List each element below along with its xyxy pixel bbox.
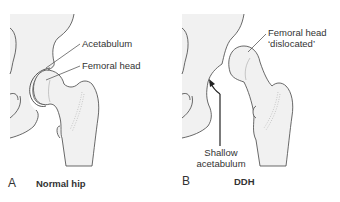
panel-b-title: DDH <box>234 176 255 187</box>
label-shallow-line2: acetabulum <box>188 158 254 169</box>
label-femoral-head-line1: Femoral head <box>268 27 327 38</box>
label-shallow-line1: Shallow <box>188 147 254 158</box>
panel-a-letter: A <box>8 176 16 190</box>
label-femoral-head-dislocated: Femoral head ‘dislocated’ <box>268 27 327 49</box>
panel-a-title: Normal hip <box>36 178 86 189</box>
label-dislocated-line2: ‘dislocated’ <box>268 38 327 49</box>
dislocated-leader <box>248 34 266 52</box>
label-shallow-acetabulum: Shallow acetabulum <box>188 147 254 169</box>
panel-a-femur <box>34 70 99 166</box>
label-femoral-head: Femoral head <box>82 60 141 71</box>
panel-b-letter: B <box>182 174 190 188</box>
label-acetabulum: Acetabulum <box>82 38 132 49</box>
